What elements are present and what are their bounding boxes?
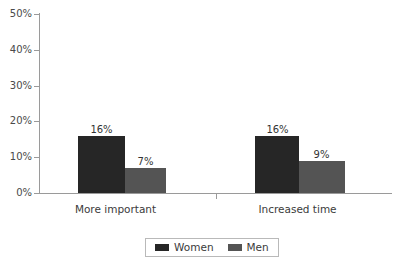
bar-value-label-women-more-important: 16% xyxy=(68,124,135,135)
bar-women-increased-time[interactable] xyxy=(255,136,299,193)
bar-men-more-important[interactable] xyxy=(125,168,166,193)
legend-item-men[interactable]: Men xyxy=(228,242,269,253)
y-axis-label-30: 30% xyxy=(0,81,32,91)
y-axis-label-10: 10% xyxy=(0,152,32,162)
bar-men-increased-time[interactable] xyxy=(299,161,345,193)
y-axis-label-0: 0% xyxy=(0,188,32,198)
y-axis-label-20: 20% xyxy=(0,116,32,126)
x-axis-category-label-more-important: More important xyxy=(58,203,173,215)
x-axis-separator-tick xyxy=(216,194,217,199)
y-axis-tick-0 xyxy=(34,193,39,194)
legend-label-men: Men xyxy=(247,242,269,253)
legend-swatch-women-icon xyxy=(155,244,169,251)
legend-swatch-men-icon xyxy=(228,244,242,251)
bar-value-label-men-increased-time: 9% xyxy=(288,149,355,160)
clipped-title-remnant xyxy=(8,0,388,1)
bar-chart: 50% 40% 30% 20% 10% 0% 16% 7% 16% 9% Mor… xyxy=(0,0,396,261)
bar-value-label-men-more-important: 7% xyxy=(112,156,179,167)
x-axis-category-label-increased-time: Increased time xyxy=(240,203,355,215)
y-axis-label-40: 40% xyxy=(0,45,32,55)
y-axis-label-50: 50% xyxy=(0,9,32,19)
legend-label-women: Women xyxy=(174,242,214,253)
legend-item-women[interactable]: Women xyxy=(155,242,214,253)
bar-value-label-women-increased-time: 16% xyxy=(244,124,311,135)
plot-area: 16% 7% 16% 9% xyxy=(39,14,392,193)
legend: Women Men xyxy=(145,238,279,257)
